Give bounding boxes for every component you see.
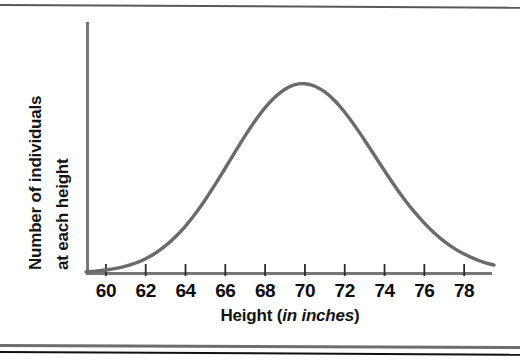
distribution-curve (86, 22, 494, 278)
plot-area (86, 22, 494, 274)
x-axis-label-suffix: ) (354, 306, 359, 325)
x-tick-label-74: 74 (363, 280, 407, 302)
x-tick-label-68: 68 (243, 280, 287, 302)
x-tick-label-64: 64 (164, 280, 208, 302)
x-tick-label-60: 60 (84, 280, 128, 302)
curve-path (86, 84, 494, 272)
y-axis-label-line-1: Number of individuals (26, 96, 46, 270)
page-rule-bottom-gray (0, 344, 520, 349)
normal-distribution-figure: Number of individuals at each height 606… (0, 8, 520, 342)
x-tick-label-76: 76 (402, 280, 446, 302)
x-tick-label-62: 62 (124, 280, 168, 302)
page-rule-bottom-dark (0, 351, 520, 356)
x-tick-label-70: 70 (283, 280, 327, 302)
x-axis-label: Height (in inches) (86, 306, 494, 326)
x-axis-label-prefix: Height ( (220, 306, 282, 325)
x-tick-label-78: 78 (442, 280, 486, 302)
x-axis-label-italic: in inches (282, 306, 354, 325)
y-axis-label-line-2: at each height (53, 158, 73, 270)
x-axis-tick-labels: 60626466687072747678 (86, 280, 496, 306)
x-tick-label-72: 72 (323, 280, 367, 302)
x-tick-label-66: 66 (203, 280, 247, 302)
